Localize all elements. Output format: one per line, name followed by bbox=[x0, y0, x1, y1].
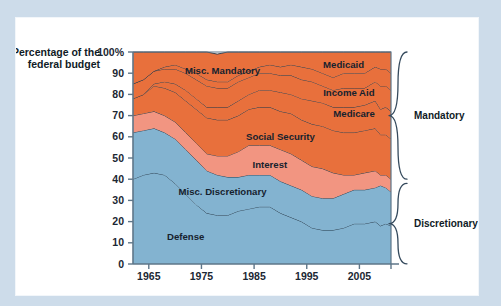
x-tick-label: 2005 bbox=[348, 270, 372, 282]
y-tick-label: 80 bbox=[112, 88, 124, 100]
y-tick-label: 20 bbox=[112, 215, 124, 227]
bracket-mandatory bbox=[389, 52, 407, 179]
bracket-discretionary bbox=[389, 183, 407, 263]
y-axis-title-line1: Percentage of the bbox=[16, 46, 100, 58]
y-axis-title-line2: federal budget bbox=[28, 58, 101, 70]
series-label-social-security: Social Security bbox=[246, 131, 315, 142]
x-tick-label: 1975 bbox=[190, 270, 214, 282]
chart-svg: 0102030405060708090100%19651975198519952… bbox=[16, 18, 478, 295]
stacked-area-chart: 0102030405060708090100%19651975198519952… bbox=[16, 18, 478, 295]
series-label-medicaid: Medicaid bbox=[323, 59, 364, 70]
series-label-misc-mandatory: Misc. Mandatory bbox=[185, 65, 261, 76]
series-label-income-aid: Income Aid bbox=[323, 87, 374, 98]
y-tick-label: 60 bbox=[112, 130, 124, 142]
series-label-interest: Interest bbox=[253, 159, 288, 170]
y-tick-label: 10 bbox=[112, 236, 124, 248]
series-label-misc-discretionary: Misc. Discretionary bbox=[179, 186, 268, 197]
bracket-label-discretionary: Discretionary bbox=[414, 218, 478, 229]
x-tick-label: 1985 bbox=[242, 270, 266, 282]
y-tick-label: 70 bbox=[112, 109, 124, 121]
bracket-label-mandatory: Mandatory bbox=[414, 110, 465, 121]
x-tick-label: 1965 bbox=[137, 270, 161, 282]
y-tick-label: 40 bbox=[112, 173, 124, 185]
x-tick-label: 1995 bbox=[295, 270, 319, 282]
series-label-defense: Defense bbox=[167, 231, 204, 242]
chart-card: 0102030405060708090100%19651975198519952… bbox=[16, 18, 478, 295]
y-tick-label: 30 bbox=[112, 194, 124, 206]
y-tick-label: 0 bbox=[118, 258, 124, 270]
y-tick-label: 50 bbox=[112, 152, 124, 164]
y-tick-label: 90 bbox=[112, 67, 124, 79]
series-label-medicare: Medicare bbox=[333, 108, 375, 119]
y-tick-label: 100% bbox=[97, 46, 125, 58]
